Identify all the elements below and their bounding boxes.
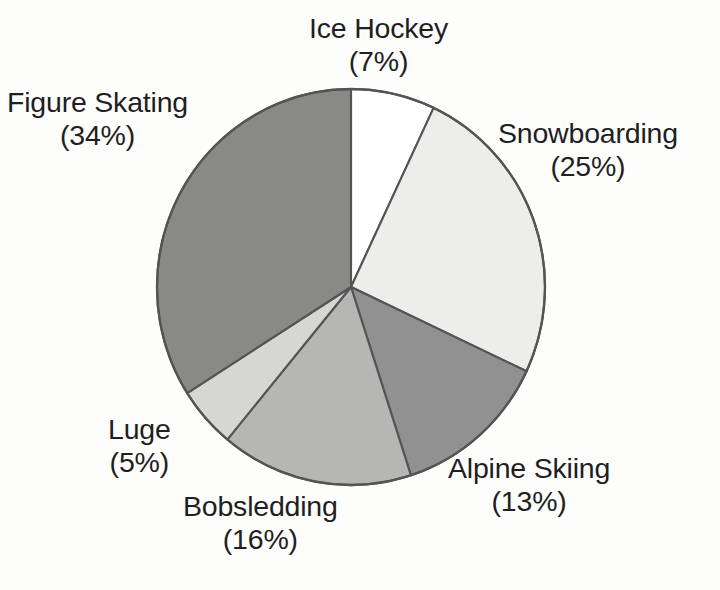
slice-label-bobsledding-percent: (16%) (183, 523, 338, 556)
slice-label-alpine-skiing-name: Alpine Skiing (448, 452, 610, 484)
slice-label-luge-percent: (5%) (108, 446, 171, 479)
slice-label-snowboarding-name: Snowboarding (498, 117, 678, 149)
slice-label-ice-hockey: Ice Hockey (7%) (309, 12, 448, 78)
slice-label-snowboarding: Snowboarding (25%) (498, 117, 678, 183)
slice-label-ice-hockey-name: Ice Hockey (309, 12, 448, 44)
slice-label-alpine-skiing: Alpine Skiing (13%) (448, 452, 610, 518)
slice-label-luge: Luge (5%) (108, 413, 171, 479)
slice-label-figure-skating: Figure Skating (34%) (7, 86, 188, 152)
slice-label-bobsledding: Bobsledding (16%) (183, 490, 338, 556)
slice-label-snowboarding-percent: (25%) (498, 150, 678, 183)
slice-label-figure-skating-percent: (34%) (7, 119, 188, 152)
pie-chart-figure: e parc lc Ice Hockey (7%) Snowboarding (… (0, 0, 720, 590)
slice-label-ice-hockey-percent: (7%) (309, 45, 448, 78)
slice-label-bobsledding-name: Bobsledding (183, 490, 338, 522)
slice-label-figure-skating-name: Figure Skating (7, 86, 188, 118)
slice-label-alpine-skiing-percent: (13%) (448, 485, 610, 518)
slice-label-luge-name: Luge (108, 413, 171, 445)
